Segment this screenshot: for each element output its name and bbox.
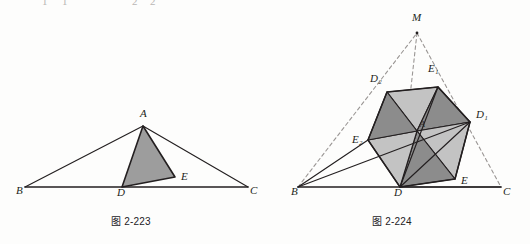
figure-2-224: MBCADED₁E₁D₂E₂ xyxy=(291,11,511,198)
point-label-B: B xyxy=(16,184,23,196)
point-label-E1: E₁ xyxy=(427,62,439,74)
point-label-C: C xyxy=(250,184,258,196)
point-label-E2: E₂ xyxy=(351,133,363,145)
point-label-A: A xyxy=(139,107,147,119)
point-label-E: E xyxy=(460,174,468,186)
point-label-M: M xyxy=(411,11,422,23)
figure-caption-left: 图 2-223 xyxy=(111,213,151,228)
vertex-dot-M xyxy=(416,32,419,35)
point-label-D: D xyxy=(116,186,125,198)
edge-BE2 xyxy=(298,140,368,187)
figure-2-223: ABCDE xyxy=(16,107,258,198)
point-label-D1: D₁ xyxy=(475,108,488,120)
figure-page: 1 1 2 2 ABCDE MBCADED₁E₁D₂E₂ 图 2-223 图 2… xyxy=(0,0,530,244)
point-label-B: B xyxy=(291,185,298,197)
point-label-C: C xyxy=(503,185,511,197)
point-label-D2: D₂ xyxy=(369,72,382,84)
figures-canvas: ABCDE MBCADED₁E₁D₂E₂ xyxy=(0,0,530,244)
point-label-D: D xyxy=(393,186,402,198)
point-label-A: A xyxy=(419,120,425,129)
shaded-triangle-ade xyxy=(122,126,175,187)
figure-caption-right: 图 2-224 xyxy=(372,213,412,228)
point-label-E: E xyxy=(180,170,188,182)
